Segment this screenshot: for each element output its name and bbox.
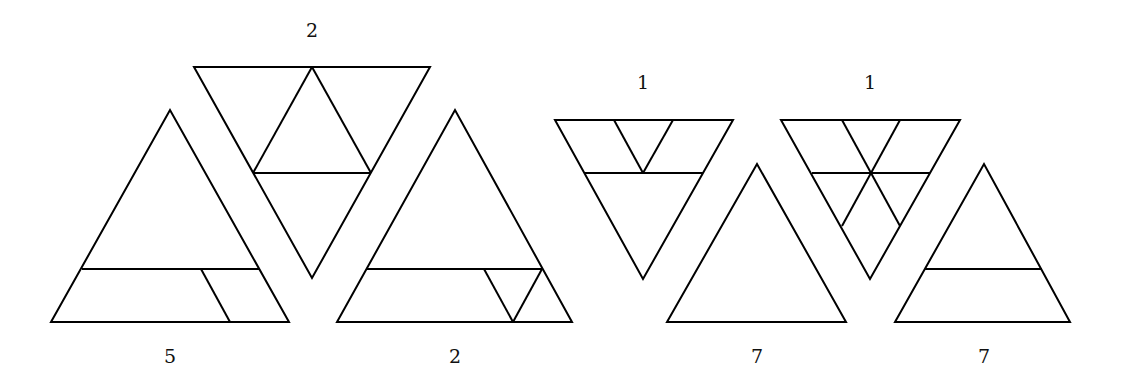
triangle-outline <box>51 110 289 322</box>
triangle-label-b: 2 <box>306 19 318 41</box>
triangle-c <box>337 110 572 322</box>
triangle-label-c: 2 <box>449 345 461 367</box>
triangle-label-d: 1 <box>637 71 649 93</box>
subdivision-line <box>614 120 643 173</box>
subdivision-line <box>484 269 513 322</box>
triangle-b <box>194 67 430 278</box>
triangles-group <box>51 67 1070 322</box>
triangle-outline <box>555 120 733 279</box>
triangle-a <box>51 110 289 322</box>
triangle-label-f: 1 <box>864 71 876 93</box>
labels-group: 5221717 <box>164 19 990 367</box>
triangle-label-g: 7 <box>978 345 990 367</box>
subdivision-line <box>201 269 230 322</box>
triangle-label-a: 5 <box>164 345 176 367</box>
triangle-label-e: 7 <box>751 345 763 367</box>
subdivision-line <box>643 120 673 173</box>
triangle-outline <box>337 110 572 322</box>
triangle-d <box>555 120 733 279</box>
subdivision-line <box>513 269 542 322</box>
subdivision-line <box>253 67 312 173</box>
subdivision-line <box>312 67 371 173</box>
triangle-diagram: 5221717 <box>0 0 1121 389</box>
